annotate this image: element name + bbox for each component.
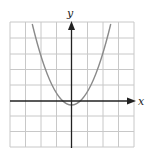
x-axis-arrow-icon bbox=[127, 98, 136, 105]
x-axis-label: x bbox=[138, 95, 145, 108]
y-axis-label: y bbox=[66, 7, 74, 20]
axes bbox=[10, 26, 131, 148]
parabola-graph: x y bbox=[0, 0, 145, 158]
